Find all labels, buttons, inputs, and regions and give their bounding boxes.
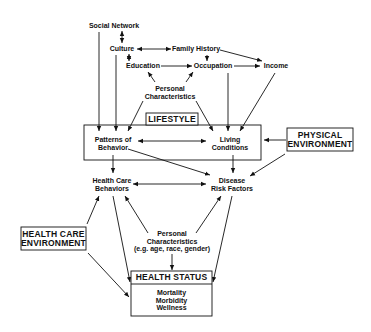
- label-line: Characteristics: [134, 238, 210, 246]
- label-line: Behavior: [95, 144, 132, 152]
- node-disease-risk-factors: Disease Risk Factors: [211, 177, 253, 192]
- node-occupation: Occupation: [194, 62, 233, 70]
- node-health-care-behaviors: Health Care Behaviors: [93, 177, 132, 192]
- health-status-title: HEALTH STATUS: [131, 273, 212, 283]
- label-line: Characteristics: [145, 93, 196, 101]
- node-family-history: Family History: [172, 45, 220, 53]
- label-line: Living: [212, 136, 249, 144]
- label-line: ENVIRONMENT: [287, 140, 353, 150]
- label-line: Health Care: [93, 177, 132, 185]
- node-personal-characteristics-bottom: Personal Characteristics (e.g. age, race…: [134, 230, 210, 253]
- health-status-items: Mortality Morbidity Wellness: [156, 289, 188, 312]
- label-line: Conditions: [212, 144, 249, 152]
- lifestyle-label: LIFESTYLE: [146, 115, 198, 125]
- health-status-mortality: Mortality: [156, 289, 188, 297]
- node-personal-characteristics-top: Personal Characteristics: [145, 85, 196, 100]
- label-line: (e.g. age, race, gender): [134, 245, 210, 253]
- node-social-network: Social Network: [89, 22, 139, 30]
- node-culture: Culture: [110, 45, 135, 53]
- health-status-wellness: Wellness: [156, 304, 188, 312]
- label-line: Disease: [211, 177, 253, 185]
- health-status-morbidity: Morbidity: [156, 297, 188, 305]
- label-line: Patterns of: [95, 136, 132, 144]
- node-patterns-of-behavior: Patterns of Behavior: [95, 136, 132, 151]
- label-line: Personal: [134, 230, 210, 238]
- node-education: Education: [126, 62, 160, 70]
- label-line: ENVIRONMENT: [21, 239, 86, 249]
- label-line: Personal: [145, 85, 196, 93]
- label-line: Behaviors: [93, 185, 132, 193]
- node-income: Income: [264, 62, 289, 70]
- physical-environment-label: PHYSICAL ENVIRONMENT: [287, 131, 353, 150]
- health-care-environment-label: HEALTH CARE ENVIRONMENT: [21, 230, 86, 249]
- label-line: Risk Factors: [211, 185, 253, 193]
- node-living-conditions: Living Conditions: [212, 136, 249, 151]
